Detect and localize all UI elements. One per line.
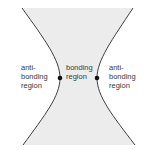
- bonding-region-label: bonding region: [66, 63, 93, 81]
- label-line: region: [109, 81, 136, 90]
- label-line: bonding: [66, 63, 93, 72]
- label-line: bonding: [109, 72, 136, 81]
- left-antibonding-label: anti- bonding region: [21, 63, 48, 90]
- label-line: bonding: [21, 72, 48, 81]
- label-line: region: [21, 81, 48, 90]
- label-line: anti-: [109, 63, 136, 72]
- left-nucleus-dot: [58, 76, 63, 81]
- right-antibonding-label: anti- bonding region: [109, 63, 136, 90]
- right-nucleus-dot: [95, 76, 100, 81]
- label-line: anti-: [21, 63, 48, 72]
- label-line: region: [66, 72, 93, 81]
